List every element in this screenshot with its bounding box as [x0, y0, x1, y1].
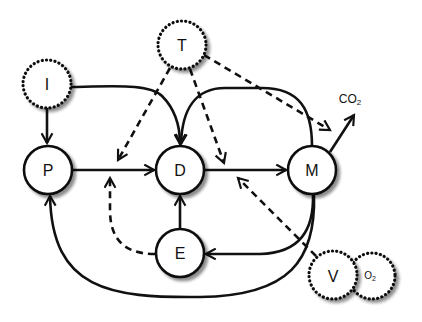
- node-v: V: [309, 251, 357, 299]
- edge-t-to-pd: [118, 68, 170, 160]
- edge-i-to-d: [71, 86, 180, 144]
- edge-t-to-co2: [204, 55, 330, 130]
- node-d: D: [156, 146, 204, 194]
- node-i: I: [23, 60, 71, 108]
- node-m: M: [288, 146, 336, 194]
- node-t-label: T: [177, 37, 187, 54]
- edge-t-to-dm: [190, 69, 224, 163]
- co2-label: CO2: [339, 92, 362, 107]
- node-t: T: [158, 21, 206, 69]
- node-e-label: E: [175, 245, 186, 262]
- node-d-label: D: [174, 162, 186, 179]
- edge-m-to-co2: [330, 115, 354, 152]
- node-v-label: V: [328, 268, 339, 285]
- node-e: E: [156, 229, 204, 277]
- node-p-label: P: [43, 162, 54, 179]
- edge-e-to-pd: [110, 178, 155, 254]
- node-m-label: M: [305, 162, 318, 179]
- node-i-label: I: [45, 76, 49, 93]
- node-p: P: [24, 146, 72, 194]
- diagram-canvas: I T P D M E O2 V CO2: [0, 0, 422, 322]
- edge-m-to-e: [206, 194, 313, 254]
